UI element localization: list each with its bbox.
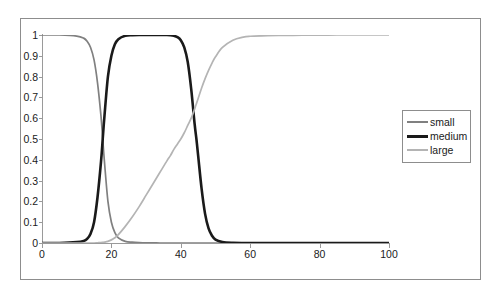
legend-item-large: large [407,143,467,157]
x-tick-label: 40 [175,249,187,260]
x-tick-label: 60 [244,249,256,260]
x-tick-label: 20 [106,249,118,260]
chart-curves [42,35,389,243]
x-tick-mark [389,244,390,248]
series-line-small [42,35,389,243]
x-tick-mark [250,244,251,248]
x-tick-mark [320,244,321,248]
legend-item-small: small [407,115,467,129]
legend-label: large [430,145,453,156]
legend-label: medium [430,131,467,142]
x-tick-mark [111,244,112,248]
legend-line-swatch [407,149,428,151]
x-tick-label: 100 [380,249,398,260]
x-tick-label: 0 [39,249,45,260]
legend-label: small [430,117,455,128]
x-tick-mark [42,244,43,248]
legend-item-medium: medium [407,129,467,143]
series-line-large [42,35,389,243]
legend-line-swatch [407,135,428,138]
legend-line-swatch [407,121,428,123]
series-line-medium [42,35,389,243]
chart-legend: smallmediumlarge [402,110,471,163]
x-tick-mark [181,244,182,248]
x-tick-label: 80 [314,249,326,260]
